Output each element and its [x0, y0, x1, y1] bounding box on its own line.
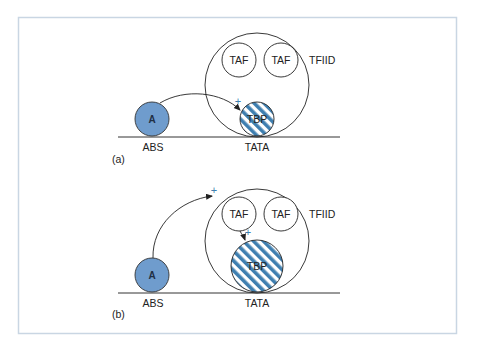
plus-sign: +	[245, 226, 251, 238]
figure: TAF TAF TFIID TBP A + ABS TATA (a) TAF T…	[0, 0, 479, 353]
taf-left-label: TAF	[229, 54, 248, 66]
taf-left-label: TAF	[229, 208, 248, 220]
plus-sign: +	[211, 184, 217, 196]
panel-label: (b)	[112, 308, 125, 320]
panel-label: (a)	[112, 153, 125, 165]
tbp-label: TBP	[247, 260, 267, 272]
activator-label: A	[148, 114, 155, 125]
plus-sign: +	[235, 95, 241, 107]
tbp-label: TBP	[247, 113, 267, 125]
tata-label: TATA	[245, 297, 270, 309]
taf-right-label: TAF	[271, 208, 290, 220]
activator-label: A	[148, 270, 155, 281]
tfiid-label: TFIID	[309, 208, 336, 220]
tfiid-label: TFIID	[309, 54, 336, 66]
abs-label: ABS	[142, 297, 163, 309]
abs-label: ABS	[142, 141, 163, 153]
tata-label: TATA	[245, 141, 270, 153]
taf-right-label: TAF	[271, 54, 290, 66]
